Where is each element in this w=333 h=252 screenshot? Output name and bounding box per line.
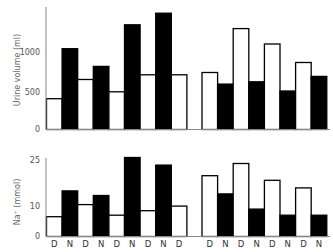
bottom-bar-n xyxy=(93,196,109,237)
x-label-n: N xyxy=(253,239,259,249)
x-tick-labels: DNDNDNDNDDNDNDNDN xyxy=(51,239,322,249)
top-tick-1000: 1000 xyxy=(20,48,40,57)
x-label-n: N xyxy=(222,239,228,249)
chart-figure: Urine volume (ml) 0 500 1000 Na⁺ (mmol) … xyxy=(0,0,333,252)
bottom-bar-n xyxy=(156,165,172,236)
bottom-bar-d xyxy=(233,164,249,237)
bottom-tick-0: 0 xyxy=(35,232,40,241)
top-bar-d xyxy=(109,92,125,130)
x-label-d: D xyxy=(51,239,58,249)
x-label-d: D xyxy=(113,239,120,249)
bottom-bar-n xyxy=(125,158,141,237)
bottom-y-axis-label: Na⁺ (mmol) xyxy=(13,179,22,226)
x-label-d: D xyxy=(238,239,245,249)
x-label-n: N xyxy=(129,239,135,249)
sodium-panel: Na⁺ (mmol) 0 10 25 DNDNDNDNDDNDNDNDN xyxy=(13,156,330,249)
bottom-bar-n xyxy=(218,194,234,237)
x-label-n: N xyxy=(67,239,73,249)
top-bar-d xyxy=(296,63,312,130)
bottom-bar-d xyxy=(264,180,280,236)
x-label-d: D xyxy=(207,239,214,249)
top-bar-n xyxy=(249,82,265,130)
top-bar-d xyxy=(202,73,218,130)
bottom-bar-n xyxy=(62,191,78,237)
x-label-n: N xyxy=(285,239,291,249)
top-tick-500: 500 xyxy=(25,88,40,97)
top-bar-d xyxy=(233,29,249,130)
top-bar-d xyxy=(264,44,280,130)
top-y-axis-label: Urine volume (ml) xyxy=(13,34,22,106)
bottom-bar-d xyxy=(78,205,94,237)
bottom-bar-d xyxy=(47,217,63,237)
top-tick-0: 0 xyxy=(35,125,40,134)
top-bar-d xyxy=(140,75,156,130)
top-bar-n xyxy=(125,25,141,130)
top-bar-n xyxy=(280,91,296,130)
top-bar-n xyxy=(311,76,327,129)
x-label-d: D xyxy=(145,239,152,249)
bottom-bar-n xyxy=(311,215,327,236)
top-bar-n xyxy=(93,66,109,129)
bottom-bar-n xyxy=(280,215,296,236)
x-label-d: D xyxy=(176,239,183,249)
top-bar-n xyxy=(156,13,172,129)
bottom-bar-d xyxy=(202,176,218,237)
bottom-bar-d xyxy=(140,211,156,237)
top-bar-d xyxy=(47,99,63,130)
bottom-bar-d xyxy=(109,215,125,236)
bottom-bars xyxy=(47,158,327,237)
top-bars xyxy=(47,13,327,129)
bottom-tick-25: 25 xyxy=(30,156,40,165)
x-label-n: N xyxy=(160,239,166,249)
bottom-tick-10: 10 xyxy=(30,202,40,211)
urine-volume-panel: Urine volume (ml) 0 500 1000 xyxy=(13,7,330,134)
bottom-bar-d xyxy=(171,206,187,236)
x-label-n: N xyxy=(316,239,322,249)
top-bar-d xyxy=(171,75,187,130)
x-label-n: N xyxy=(98,239,104,249)
top-bar-n xyxy=(218,84,234,129)
bottom-bar-d xyxy=(296,188,312,237)
top-bar-n xyxy=(62,49,78,130)
x-label-d: D xyxy=(300,239,307,249)
bottom-bar-n xyxy=(249,209,265,236)
x-label-d: D xyxy=(269,239,276,249)
top-bar-d xyxy=(78,80,94,130)
x-label-d: D xyxy=(82,239,89,249)
